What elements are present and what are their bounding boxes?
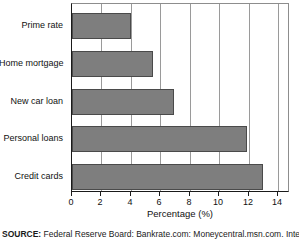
tick-label-14: 14	[266, 197, 288, 207]
source-note: SOURCE: Federal Reserve Board: Bankrate.…	[2, 229, 299, 239]
bar-chart-figure: Prime rate Home mortgage New car loan Pe…	[0, 0, 299, 240]
category-label-personal-loans: Personal loans	[0, 133, 63, 143]
x-axis-title: Percentage (%)	[71, 208, 289, 219]
tick-label-10: 10	[207, 197, 229, 207]
bar-series	[72, 4, 288, 191]
bar-home-mortgage	[72, 51, 153, 77]
tick-label-8: 8	[178, 197, 200, 207]
tick-mark-4	[130, 192, 131, 196]
tick-mark-14	[277, 192, 278, 196]
x-axis-ticks: 02468101214	[71, 192, 289, 208]
bar-credit-cards	[72, 164, 263, 190]
category-label-home-mortgage: Home mortgage	[0, 58, 63, 68]
tick-label-12: 12	[237, 197, 259, 207]
tick-label-2: 2	[89, 197, 111, 207]
category-label-credit-cards: Credit cards	[0, 171, 63, 181]
bar-prime-rate	[72, 13, 131, 39]
tick-label-0: 0	[60, 197, 82, 207]
plot-area	[71, 3, 289, 192]
category-label-new-car-loan: New car loan	[0, 96, 63, 106]
source-label: SOURCE:	[2, 229, 41, 239]
category-axis-labels: Prime rate Home mortgage New car loan Pe…	[0, 3, 68, 192]
tick-mark-0	[71, 192, 72, 196]
tick-mark-10	[218, 192, 219, 196]
tick-mark-2	[100, 192, 101, 196]
tick-label-4: 4	[119, 197, 141, 207]
tick-label-6: 6	[148, 197, 170, 207]
category-label-prime-rate: Prime rate	[0, 20, 63, 30]
bar-personal-loans	[72, 126, 247, 152]
tick-mark-8	[189, 192, 190, 196]
tick-mark-12	[248, 192, 249, 196]
source-text: Federal Reserve Board: Bankrate.com: Mon…	[41, 229, 299, 239]
tick-mark-6	[159, 192, 160, 196]
bar-new-car-loan	[72, 89, 174, 115]
